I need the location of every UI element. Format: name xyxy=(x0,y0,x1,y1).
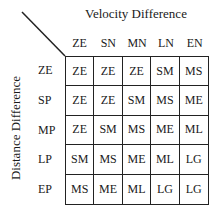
table-cell: ZE xyxy=(66,86,94,115)
column-header: MN xyxy=(123,36,152,51)
table-cell: LG xyxy=(180,145,208,174)
table-cell: ML xyxy=(123,175,151,204)
table-cell: MS xyxy=(66,175,94,204)
table-cell: SM xyxy=(151,57,179,86)
table-cell: ZE xyxy=(123,57,151,86)
table-cell: ME xyxy=(123,145,151,174)
row-header: EP xyxy=(38,182,62,197)
rule-table: ZEZEZESMMSZEZESMMSMEZESMMSMEMLSMMSMEMLLG… xyxy=(65,56,209,205)
row-header: SP xyxy=(38,93,62,108)
table-cell: LG xyxy=(151,175,179,204)
column-header: EN xyxy=(180,36,209,51)
column-axis-title: Velocity Difference xyxy=(85,6,187,22)
row-header: MP xyxy=(38,123,62,138)
table-cell: SM xyxy=(94,116,122,145)
row-axis-title: Distance Difference xyxy=(8,68,24,188)
table-cell: ZE xyxy=(94,86,122,115)
table-cell: ZE xyxy=(66,116,94,145)
table-cell: ML xyxy=(151,145,179,174)
table-cell: ML xyxy=(180,116,208,145)
column-header: ZE xyxy=(65,36,94,51)
table-cell: MS xyxy=(123,116,151,145)
table-cell: SM xyxy=(66,145,94,174)
table-cell: ZE xyxy=(66,57,94,86)
table-cell: ME xyxy=(151,116,179,145)
table-cell: SM xyxy=(123,86,151,115)
row-header: LP xyxy=(38,152,62,167)
row-header: ZE xyxy=(38,63,62,78)
table-cell: MS xyxy=(180,57,208,86)
column-header: SN xyxy=(94,36,123,51)
column-header: LN xyxy=(151,36,180,51)
table-cell: MS xyxy=(151,86,179,115)
table-cell: MS xyxy=(94,145,122,174)
table-cell: ZE xyxy=(94,57,122,86)
table-cell: ME xyxy=(180,86,208,115)
table-cell: ME xyxy=(94,175,122,204)
table-cell: LG xyxy=(180,175,208,204)
